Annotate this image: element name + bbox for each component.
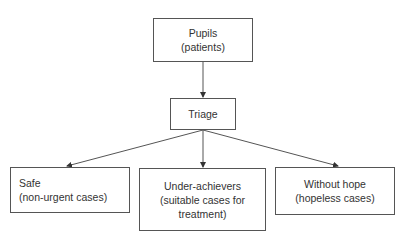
node-pupils-title: Pupils	[189, 26, 218, 40]
node-safe: Safe (non-urgent cases)	[10, 167, 130, 213]
node-without-hope: Without hope (hopeless cases)	[275, 167, 395, 215]
node-under-subtitle-2: treatment)	[179, 207, 227, 221]
node-safe-title: Safe	[19, 176, 41, 190]
node-triage-title: Triage	[188, 107, 217, 121]
node-under-title: Under-achievers	[164, 179, 241, 193]
node-pupils-subtitle: (patients)	[181, 40, 225, 54]
node-hope-title: Without hope	[304, 177, 366, 191]
node-under-subtitle-1: (suitable cases for	[160, 193, 245, 207]
node-safe-subtitle: (non-urgent cases)	[19, 190, 107, 204]
arrow-triage-to-hope	[203, 130, 338, 166]
node-hope-subtitle: (hopeless cases)	[295, 191, 374, 205]
arrow-triage-to-safe	[67, 130, 203, 166]
node-pupils: Pupils (patients)	[153, 18, 253, 62]
node-triage: Triage	[170, 98, 236, 130]
node-under-achievers: Under-achievers (suitable cases for trea…	[139, 168, 266, 231]
